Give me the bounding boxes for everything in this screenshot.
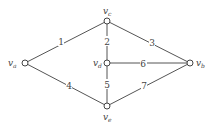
vertex-label-b: vb <box>196 58 205 69</box>
vertex-label-a: va <box>8 58 17 69</box>
vertex-label-d: vd <box>93 58 102 69</box>
vertex-b <box>187 60 193 66</box>
edge-weight-c-d: 2 <box>104 37 110 47</box>
vertex-label-e: ve <box>103 112 112 123</box>
edge-weight-d-e: 5 <box>104 80 110 90</box>
edge-weight-a-e: 4 <box>66 81 72 91</box>
edge-weight-d-b: 6 <box>140 59 146 69</box>
edge-weight-a-c: 1 <box>58 37 64 47</box>
vertex-d <box>104 60 110 66</box>
vertex-e <box>104 103 110 109</box>
edge-e-b <box>107 63 190 106</box>
edge-weight-c-b: 3 <box>149 38 155 48</box>
graph-diagram: 1 2 3 4 5 6 7 va vc vd vb ve <box>0 0 214 127</box>
edge-weight-e-b: 7 <box>141 81 147 91</box>
vertex-label-c: vc <box>103 6 112 17</box>
edge-a-c <box>25 21 107 63</box>
vertex-c <box>104 18 110 24</box>
vertex-a <box>22 60 28 66</box>
